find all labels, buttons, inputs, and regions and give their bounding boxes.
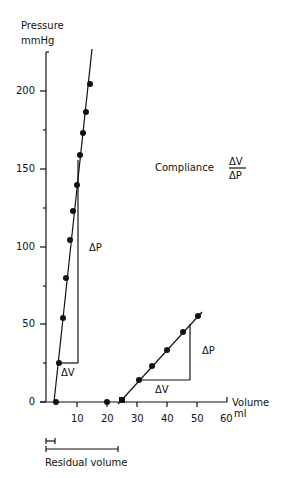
y-tick-label: 200 [16, 85, 35, 96]
y-tick-label: 0 [29, 396, 35, 407]
delta-p-label-high: ΔP [202, 345, 215, 356]
compliance-label: Compliance [155, 162, 214, 173]
delta-v-label-low: ΔV [61, 367, 75, 378]
x-tick-label: 60 [220, 413, 233, 424]
residual-volume-label: Residual volume [45, 457, 127, 468]
y-tick-label: 50 [22, 318, 35, 329]
y-tick-label: 100 [16, 241, 35, 252]
x-tick-label: 20 [101, 413, 114, 424]
x-axis-title: Volume [232, 397, 269, 408]
x-tick-label: 50 [191, 413, 204, 424]
compliance-numerator: ΔV [229, 156, 243, 167]
y-axis-unit: mmHg [21, 35, 54, 46]
x-axis-unit: ml [234, 408, 247, 419]
delta-v-label-high: ΔV [155, 384, 169, 395]
compliance-denominator: ΔP [229, 170, 242, 181]
y-tick-label: 150 [16, 163, 35, 174]
data-points [53, 81, 201, 405]
x-tick-label: 40 [161, 413, 174, 424]
fit-line-low-compliance [54, 49, 92, 402]
delta-p-label-low: ΔP [89, 242, 102, 253]
x-tick-label: 30 [131, 413, 144, 424]
x-tick-label: 10 [71, 413, 84, 424]
y-axis-title: Pressure [21, 20, 64, 31]
